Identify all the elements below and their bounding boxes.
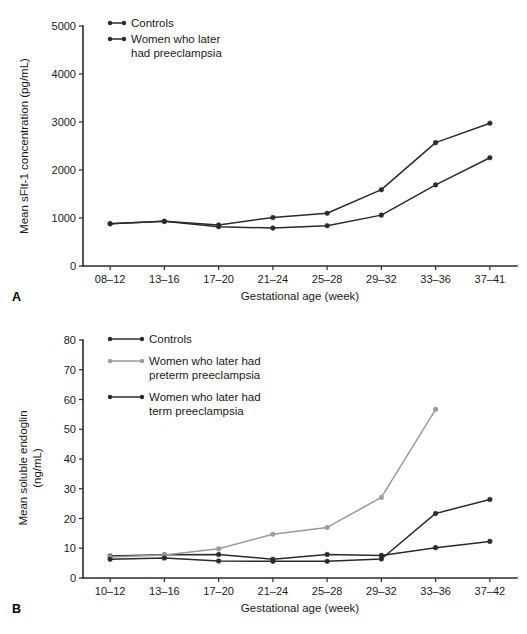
data-point: [433, 407, 438, 412]
x-tick-label: 10–12: [95, 585, 126, 597]
x-tick-label: 13–16: [149, 273, 180, 285]
y-tick-label: 0: [70, 260, 76, 272]
y-tick-label: 3000: [52, 116, 76, 128]
x-tick-label: 37–42: [475, 585, 506, 597]
x-tick-label: 37–41: [475, 273, 506, 285]
x-tick-label: 33–36: [420, 585, 451, 597]
data-point: [379, 213, 384, 218]
data-point: [108, 221, 113, 226]
panel-b-chart: 0102030405060708010–1213–1617–2021–2425–…: [0, 318, 527, 634]
panel-a: 01000200030004000500008–1213–1617–2021–2…: [0, 0, 527, 318]
data-point: [271, 226, 276, 231]
legend-label: had preeclampsia: [131, 47, 222, 59]
legend-label: Women who later had: [149, 391, 261, 403]
legend-marker-end-2: [140, 395, 144, 399]
legend-marker-start-1: [108, 359, 112, 363]
panel-a-chart: 01000200030004000500008–1213–1617–2021–2…: [0, 0, 527, 318]
y-tick-label: 50: [64, 423, 76, 435]
data-point: [216, 223, 221, 228]
data-point: [325, 223, 330, 228]
legend: ControlsWomen who later hadpreterm preec…: [108, 333, 261, 417]
legend-label: Controls: [149, 333, 192, 345]
data-point: [379, 557, 384, 562]
panel-b-plot: 0102030405060708010–1213–1617–2021–2425–…: [12, 333, 517, 616]
y-tick-label: 1000: [52, 212, 76, 224]
y-tick-label: 80: [64, 334, 76, 346]
data-point: [325, 211, 330, 216]
data-point: [379, 187, 384, 192]
legend-label: Women who later: [131, 33, 220, 45]
y-tick-label: 2000: [52, 164, 76, 176]
legend-label: Women who later had: [149, 355, 261, 367]
data-point: [488, 121, 493, 126]
data-point: [162, 556, 167, 561]
data-point: [433, 140, 438, 145]
x-tick-label: 17–20: [203, 273, 234, 285]
data-point: [271, 215, 276, 220]
panel-b: 0102030405060708010–1213–1617–2021–2425–…: [0, 318, 527, 634]
y-tick-label: 0: [70, 572, 76, 584]
data-point: [162, 219, 167, 224]
y-tick-label: 20: [64, 513, 76, 525]
series-line-0: [110, 158, 490, 228]
data-point: [433, 545, 438, 550]
panel-letter: B: [12, 602, 21, 616]
data-point: [488, 155, 493, 160]
legend-marker-start-0: [108, 21, 112, 25]
data-point: [325, 552, 330, 557]
y-tick-label: 5000: [52, 20, 76, 32]
series-line-1: [110, 123, 490, 225]
x-tick-label: 13–16: [149, 585, 180, 597]
data-point: [108, 557, 113, 562]
data-point: [379, 495, 384, 500]
y-tick-label: 60: [64, 394, 76, 406]
panel-a-plot: 01000200030004000500008–1213–1617–2021–2…: [12, 17, 517, 304]
x-tick-label: 21–24: [258, 585, 289, 597]
y-tick-label: 30: [64, 483, 76, 495]
y-axis-title: (ng/mL): [31, 448, 43, 488]
legend-marker-start-1: [108, 37, 112, 41]
data-point: [433, 183, 438, 188]
x-tick-label: 29–32: [366, 585, 397, 597]
x-axis-title: Gestational age (week): [241, 290, 359, 302]
x-tick-label: 33–36: [420, 273, 451, 285]
caption-text: [0, 624, 527, 634]
data-point: [325, 525, 330, 530]
data-point: [488, 497, 493, 502]
data-point: [325, 559, 330, 564]
legend-marker-end-0: [140, 337, 144, 341]
legend-marker-start-0: [108, 337, 112, 341]
legend-label: term preeclampsia: [149, 405, 244, 417]
panel-letter: A: [12, 290, 21, 304]
x-axis-title: Gestational age (week): [241, 602, 359, 614]
x-tick-label: 21–24: [258, 273, 289, 285]
y-tick-label: 40: [64, 453, 76, 465]
data-point: [216, 547, 221, 552]
legend-marker-end-1: [140, 359, 144, 363]
legend-marker-start-2: [108, 395, 112, 399]
data-point: [488, 539, 493, 544]
data-point: [271, 559, 276, 564]
legend: ControlsWomen who laterhad preeclampsia: [108, 17, 223, 59]
y-tick-label: 70: [64, 364, 76, 376]
legend-marker-end-1: [122, 37, 126, 41]
figure-container: 01000200030004000500008–1213–1617–2021–2…: [0, 0, 527, 634]
x-tick-label: 17–20: [203, 585, 234, 597]
x-tick-label: 29–32: [366, 273, 397, 285]
series-line-0: [110, 541, 490, 559]
y-axis-title: Mean soluble endoglin: [17, 410, 29, 525]
data-point: [216, 559, 221, 564]
caption-strip: [0, 624, 527, 634]
data-point: [433, 511, 438, 516]
y-axis-title: Mean sFlt-1 concentration (pg/mL): [18, 58, 30, 234]
legend-marker-end-0: [122, 21, 126, 25]
data-point: [216, 552, 221, 557]
legend-label: Controls: [131, 17, 174, 29]
y-tick-label: 10: [64, 542, 76, 554]
y-tick-label: 4000: [52, 68, 76, 80]
x-tick-label: 08–12: [95, 273, 126, 285]
x-tick-label: 25–28: [312, 273, 343, 285]
x-tick-label: 25–28: [312, 585, 343, 597]
legend-label: preterm preeclampsia: [149, 369, 261, 381]
data-point: [271, 532, 276, 537]
